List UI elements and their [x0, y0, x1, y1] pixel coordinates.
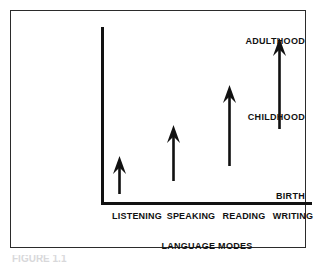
x-axis-label-reading: READING: [223, 211, 266, 222]
writing-arrow: [271, 38, 288, 129]
speaking-arrow: [165, 125, 182, 181]
figure-frame: ADULTHOOD CHILDHOOD BIRTH LISTENING SPEA…: [10, 10, 306, 248]
reading-arrow: [221, 85, 238, 166]
y-axis-line: [101, 27, 104, 205]
x-axis-label-writing: WRITING: [273, 211, 313, 222]
x-axis-label-listening: LISTENING: [112, 211, 162, 222]
y-axis-label-adulthood: ADULTHOOD: [220, 36, 305, 46]
listening-arrow: [111, 156, 128, 194]
x-axis-line: [101, 202, 312, 205]
x-axis-label-speaking: SPEAKING: [167, 211, 216, 222]
figure-caption-sliver: FIGURE 1.1: [12, 255, 310, 264]
figure-caption-text: FIGURE 1.1: [12, 255, 310, 264]
y-axis-label-birth: BIRTH: [220, 191, 305, 201]
x-axis-label-group: LISTENING SPEAKING READING WRITING: [99, 211, 313, 225]
x-axis-title: LANGUAGE MODES: [101, 241, 313, 251]
figure-root: ADULTHOOD CHILDHOOD BIRTH LISTENING SPEA…: [0, 0, 322, 265]
